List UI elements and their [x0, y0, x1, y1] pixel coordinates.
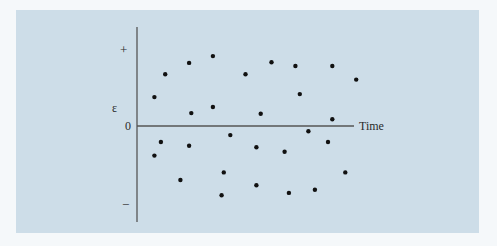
y-axis-label-epsilon: ε: [112, 102, 117, 114]
data-point: [187, 144, 191, 148]
residual-scatter-plot: [0, 0, 497, 246]
x-axis-label-time: Time: [359, 120, 384, 132]
y-tick-zero: 0: [125, 120, 131, 132]
data-point: [189, 111, 193, 115]
data-point: [269, 60, 273, 64]
data-point: [287, 191, 291, 195]
data-point: [163, 72, 167, 76]
data-point: [159, 140, 163, 144]
data-point: [298, 92, 302, 96]
data-point: [187, 61, 191, 65]
y-tick-minus: −: [122, 198, 129, 211]
data-point: [243, 72, 247, 76]
data-point: [330, 64, 334, 68]
data-point: [228, 133, 232, 137]
data-point: [306, 129, 310, 133]
data-point: [293, 64, 297, 68]
data-point: [326, 140, 330, 144]
data-point: [222, 170, 226, 174]
data-point: [152, 153, 156, 157]
data-point: [152, 95, 156, 99]
data-point: [211, 105, 215, 109]
data-point: [211, 54, 215, 58]
data-point: [219, 193, 223, 197]
data-point: [354, 77, 358, 81]
y-tick-plus: +: [120, 43, 127, 56]
data-point: [282, 150, 286, 154]
data-point: [254, 183, 258, 187]
data-point: [330, 117, 334, 121]
data-point: [343, 170, 347, 174]
data-point: [313, 188, 317, 192]
data-point: [259, 112, 263, 116]
data-point: [178, 178, 182, 182]
data-point: [254, 145, 258, 149]
